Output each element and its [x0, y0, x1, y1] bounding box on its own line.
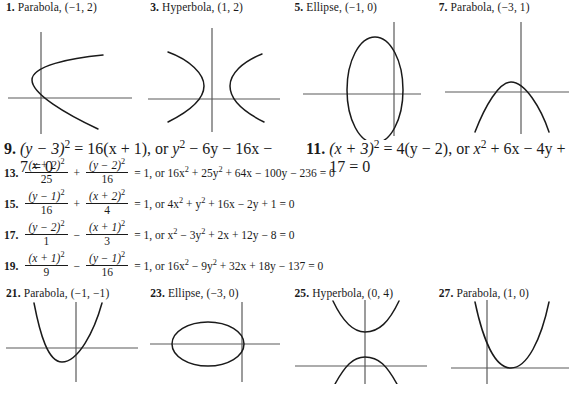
tail-c: + 64x − 100y − 236 = 0	[223, 167, 335, 179]
eq11-t1: x	[474, 140, 481, 157]
equation-tail: = 1, or x2 − 3y2 + 2x + 12y − 8 = 0	[134, 229, 294, 241]
figure-number-1: 1.	[6, 1, 15, 13]
tail-a: = 1, or 16x	[134, 260, 185, 272]
curve-lower-branch	[335, 357, 397, 384]
equation-number-19: 19.	[4, 260, 18, 272]
fraction-operator: +	[74, 198, 81, 210]
fraction-numerator: (y − 2)2	[25, 221, 67, 234]
figure-number-27: 27.	[439, 287, 454, 299]
numerator-exp: 2	[121, 157, 125, 166]
figure-number-3: 3.	[150, 1, 159, 13]
figure-row-bottom: 21. Parabola, (−1, −1) 23. Ellipse, (−3,…	[0, 286, 577, 384]
curve-parabola	[475, 302, 549, 368]
figure-heading-3: 3. Hyperbola, (1, 2)	[144, 0, 288, 14]
numerator-exp: 2	[121, 250, 125, 259]
tail-c: + 16x − 2y + 1 = 0	[205, 198, 294, 210]
figure-heading-21: 21. Parabola, (−1, −1)	[0, 286, 144, 300]
curve-parabola	[475, 82, 549, 132]
figure-label-1: Parabola, (−1, 2)	[18, 1, 97, 13]
numerator-exp: 2	[60, 219, 64, 228]
fraction-2: (y − 2)2 16	[86, 159, 128, 186]
figure-cell-1: 1. Parabola, (−1, 2)	[0, 0, 144, 140]
equation-number-9: 9.	[4, 140, 16, 158]
fraction-numerator: (y − 1)2	[25, 190, 67, 203]
numerator-base: (x + 1)	[28, 252, 60, 264]
curve-left-branch	[168, 52, 204, 122]
curve-upper-branch	[333, 301, 399, 332]
figure-label-7: Parabola, (−3, 1)	[451, 1, 530, 13]
fraction-numerator: (x + 2)2	[86, 190, 128, 203]
graph-parabola-27	[433, 300, 577, 384]
tail-a: = 1, or 4x	[134, 198, 179, 210]
tail-b: + y	[183, 198, 201, 210]
fraction-numerator: (y − 2)2	[86, 159, 128, 172]
graph-ellipse-23	[144, 300, 288, 384]
figure-cell-23: 23. Ellipse, (−3, 0)	[144, 286, 288, 384]
figure-heading-7: 7. Parabola, (−3, 1)	[433, 0, 577, 14]
tail-b: − 3y	[177, 229, 201, 241]
fraction-denominator: 4	[101, 204, 113, 217]
numerator-base: (y − 2)	[89, 159, 121, 171]
equation-row-9-11: 9. (y − 3)2 = 16(x + 1), or y2 − 6y − 16…	[4, 140, 577, 157]
figure-cell-5: 5. Ellipse, (−1, 0)	[289, 0, 433, 140]
equation-number-13: 13.	[4, 167, 18, 179]
equation-number-15: 15.	[4, 198, 18, 210]
fraction-denominator: 9	[41, 266, 53, 279]
numerator-exp: 2	[60, 188, 64, 197]
figure-row-top: 1. Parabola, (−1, 2) 3. Hyperbola, (1, 2…	[0, 0, 577, 140]
figure-label-27: Parabola, (1, 0)	[456, 287, 529, 299]
tail-c: + 2x + 12y − 8 = 0	[205, 229, 294, 241]
figure-label-23: Ellipse, (−3, 0)	[168, 287, 239, 299]
fraction-denominator: 16	[98, 173, 116, 186]
fraction-denominator: 1	[41, 235, 53, 248]
fraction-denominator: 25	[38, 173, 56, 186]
equation-tail: = 1, or 16x2 − 9y2 + 32x + 18y − 137 = 0	[134, 260, 323, 272]
eq9-lhs-exp: 2	[65, 138, 71, 150]
graph-ellipse-5	[289, 14, 433, 140]
eq9-lhs: (y − 3)	[20, 140, 65, 157]
figure-label-3: Hyperbola, (1, 2)	[162, 1, 243, 13]
numerator-exp: 2	[60, 157, 64, 166]
fraction-operator: −	[74, 260, 81, 272]
answer-key-page: 1. Parabola, (−1, 2) 3. Hyperbola, (1, 2…	[0, 0, 577, 409]
equation-number-17: 17.	[4, 229, 18, 241]
fraction-2: (x + 2)2 4	[86, 190, 128, 217]
figure-cell-3: 3. Hyperbola, (1, 2)	[144, 0, 288, 140]
equation-list: 9. (y − 3)2 = 16(x + 1), or y2 − 6y − 16…	[0, 140, 577, 281]
graph-hyperbola-25	[289, 300, 433, 384]
graph-parabola-7	[433, 14, 577, 140]
eq11-lhs-exp: 2	[374, 138, 380, 150]
fraction-numerator: (x + 1)2	[25, 252, 67, 265]
figure-cell-25: 25. Hyperbola, (0, 4)	[289, 286, 433, 384]
equation-15: 15. (y − 1)2 16 + (x + 2)2 4 = 1, or 4x2…	[4, 188, 577, 219]
fraction-2: (y − 1)2 16	[86, 252, 128, 279]
tail-a: = 1, or 16x	[134, 167, 185, 179]
graph-hyperbola-3	[144, 14, 288, 140]
fraction-numerator: (x + 1)2	[86, 221, 128, 234]
figure-cell-7: 7. Parabola, (−3, 1)	[433, 0, 577, 140]
fraction-operator: −	[74, 229, 81, 241]
fraction-1: (y − 2)2 1	[25, 221, 67, 248]
numerator-base: (x + 2)	[89, 190, 121, 202]
fraction-1: (x + 1)2 9	[25, 252, 67, 279]
fraction-2: (x + 1)2 3	[86, 221, 128, 248]
fraction-denominator: 16	[38, 204, 56, 217]
figure-number-7: 7.	[439, 1, 448, 13]
figure-heading-5: 5. Ellipse, (−1, 0)	[289, 0, 433, 14]
equation-tail: = 1, or 4x2 + y2 + 16x − 2y + 1 = 0	[134, 198, 294, 210]
figure-cell-21: 21. Parabola, (−1, −1)	[0, 286, 144, 384]
numerator-base: (x + 1)	[89, 221, 121, 233]
curve-ellipse	[347, 37, 403, 140]
graph-parabola-21	[0, 300, 144, 384]
eq9-rhs: = 16(x + 1), or	[74, 140, 172, 157]
tail-a: = 1, or x	[134, 229, 173, 241]
tail-b: − 9y	[189, 260, 213, 272]
fraction-denominator: 3	[101, 235, 113, 248]
numerator-exp: 2	[121, 219, 125, 228]
figure-heading-27: 27. Parabola, (1, 0)	[433, 286, 577, 300]
curve-right-branch	[230, 54, 264, 122]
curve-parabola	[34, 303, 102, 362]
eq11-rhs: = 4(y − 2), or	[383, 140, 473, 157]
eq11-lhs: (x + 3)	[329, 140, 374, 157]
figure-heading-23: 23. Ellipse, (−3, 0)	[144, 286, 288, 300]
